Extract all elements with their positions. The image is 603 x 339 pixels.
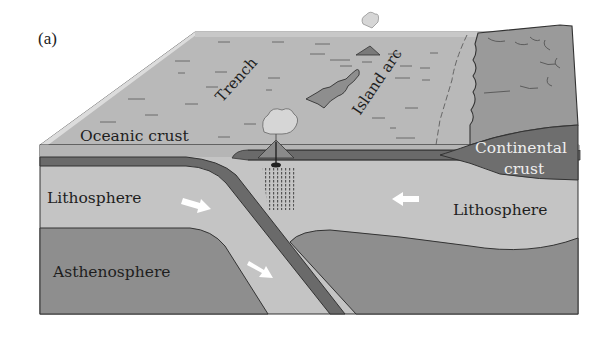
lithosphere-left-label: Lithosphere [47,189,141,207]
diagram-canvas: (a) Oceanic crust Trench Island arc Cont… [0,0,603,339]
plate-boundary-diagram: (a) Oceanic crust Trench Island arc Cont… [0,0,603,339]
island-volcano-cloud-icon [362,12,379,28]
continental-crust-label-line2: crust [504,160,545,178]
magma-rising [262,167,296,210]
asthenosphere-label: Asthenosphere [52,263,170,281]
oceanic-crust-label: Oceanic crust [80,127,189,145]
lithosphere-right-label: Lithosphere [453,201,547,219]
continental-crust-label-line1: Continental [475,139,567,157]
panel-label: (a) [38,29,57,48]
